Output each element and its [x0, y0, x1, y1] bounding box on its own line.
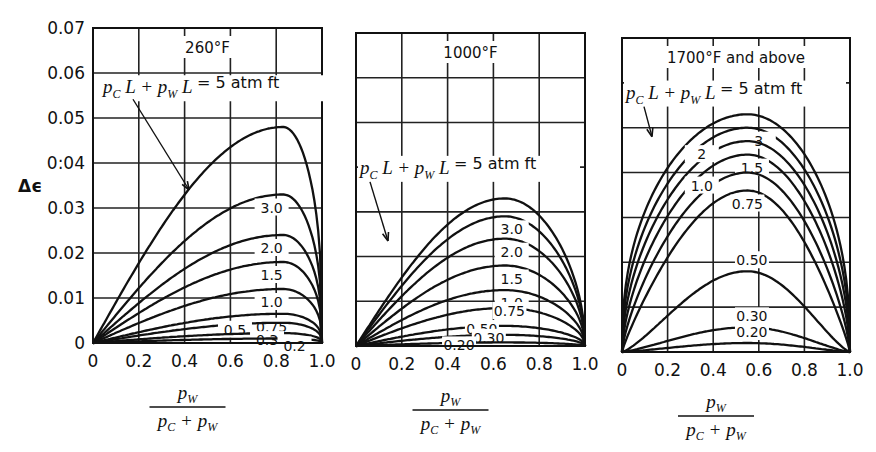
- curve-label: 1.0: [691, 178, 713, 194]
- y-axis-label: Δϵ: [18, 176, 42, 196]
- curve-label: 3.0: [501, 221, 523, 237]
- x-tick-label: 0.2: [654, 360, 681, 380]
- curve-label: 1.5: [260, 267, 282, 283]
- curves: 3.02.01.51.00.750.500.300.20: [356, 198, 585, 353]
- curve-label: 2: [697, 146, 706, 162]
- x-tick-label: 0.8: [791, 360, 818, 380]
- y-tick-label: 0: [74, 333, 85, 353]
- curves: 321.51.00.750.500.300.20: [622, 114, 850, 352]
- y-tick-label: 0:04: [47, 153, 85, 173]
- svg-text:pC + pW: pC + pW: [684, 419, 746, 443]
- y-tick-label: 0.01: [47, 288, 85, 308]
- annotation-arrow: [133, 99, 189, 190]
- x-tick-label: 1.0: [836, 360, 863, 380]
- chart-panel-1: 3.02.01.51.00.750.50.30.2260°FpC L + pW …: [88, 28, 336, 434]
- x-tick-label: 0.2: [125, 351, 152, 371]
- x-axis-label: pWpC + pW: [150, 382, 226, 434]
- curve-label: 0.50: [736, 252, 767, 268]
- emissivity-correction-figure: 00.010.020.030:040.050.060.07 Δϵ 3.02.01…: [0, 0, 876, 452]
- curve-label: 0.75: [494, 303, 525, 319]
- x-tick-label: 0.8: [526, 354, 553, 374]
- svg-text:pW: pW: [704, 391, 727, 415]
- y-tick-label: 0.07: [47, 18, 85, 38]
- x-tick-label: 0: [88, 351, 99, 371]
- curve-label: 0.5: [224, 322, 246, 338]
- x-axis-label: pWpC + pW: [413, 385, 489, 437]
- curve-label: 0.30: [736, 308, 767, 324]
- curve-label: 2.0: [260, 240, 282, 256]
- x-axis-label: pWpC + pW: [678, 391, 754, 443]
- curve-label: 1.0: [260, 294, 282, 310]
- y-tick-label: 0.03: [47, 198, 85, 218]
- y-tick-label: 0.02: [47, 243, 85, 263]
- svg-text:pW: pW: [176, 382, 199, 406]
- x-tick-label: 0.6: [480, 354, 507, 374]
- x-tick-label: 0.6: [217, 351, 244, 371]
- svg-text:pW: pW: [439, 385, 462, 409]
- x-tick-label: 0: [617, 360, 628, 380]
- panel-title: 1700°F and above: [667, 49, 805, 67]
- chart-panel-2: 3.02.01.51.00.750.500.300.201000°FpC L +…: [351, 33, 599, 437]
- panel-title: 1000°F: [443, 44, 497, 62]
- x-tick-label: 0.8: [263, 351, 290, 371]
- curve-label: 0.75: [732, 196, 763, 212]
- x-tick-label: 0: [351, 354, 362, 374]
- x-tick-label: 0.4: [434, 354, 461, 374]
- svg-text:pC + pW: pC + pW: [419, 413, 481, 437]
- x-tick-label: 1.0: [308, 351, 335, 371]
- x-tick-label: 0.4: [700, 360, 727, 380]
- x-tick-label: 0.4: [171, 351, 198, 371]
- y-tick-label: 0.05: [47, 108, 85, 128]
- curve-label: 3: [754, 133, 763, 149]
- x-tick-label: 1.0: [571, 354, 598, 374]
- svg-text:pC + pW: pC + pW: [156, 410, 218, 434]
- curve-label: 3.0: [260, 200, 282, 216]
- curves: 3.02.01.51.00.750.50.30.2: [93, 127, 322, 354]
- panel-title: 260°F: [185, 39, 230, 57]
- curve-label: 0.20: [736, 324, 767, 340]
- curve-label: 0.3: [256, 332, 278, 348]
- x-tick-label: 0.2: [388, 354, 415, 374]
- chart-panel-3: 321.51.00.750.500.300.201700°F and above…: [617, 38, 864, 443]
- curve-label: 1.5: [501, 271, 523, 287]
- curve-label: 2.0: [501, 244, 523, 260]
- y-tick-label: 0.06: [47, 63, 85, 83]
- y-axis: 00.010.020.030:040.050.060.07: [47, 18, 85, 353]
- x-tick-label: 0.6: [745, 360, 772, 380]
